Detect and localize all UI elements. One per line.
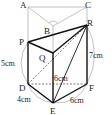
label-E: E: [50, 106, 56, 115]
measure-DE: 4cm: [17, 95, 32, 104]
label-D: D: [19, 83, 26, 93]
prism-diagram: A C B P R Q D F E 5cm 6cm 7cm 4cm 6cm: [0, 0, 112, 115]
label-F: F: [89, 83, 94, 93]
measure-QE: 6cm: [54, 74, 69, 83]
label-P: P: [19, 37, 24, 47]
label-R: R: [87, 18, 93, 28]
measure-RF: 7cm: [89, 51, 104, 60]
diagonal-ER: [53, 25, 87, 103]
measure-EF: 6cm: [70, 96, 85, 105]
label-B: B: [44, 26, 50, 36]
label-A: A: [20, 0, 27, 10]
measure-PD: 5cm: [1, 59, 16, 68]
label-Q: Q: [39, 53, 46, 63]
label-C: C: [85, 0, 91, 10]
solid-edges: [28, 25, 87, 103]
